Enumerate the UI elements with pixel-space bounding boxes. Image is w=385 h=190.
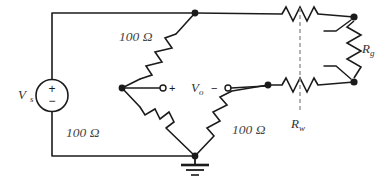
resistor-gauge-rg: R g (324, 13, 375, 85)
wire-topnode-to-r1 (176, 13, 195, 34)
source-label-subscript: s (30, 94, 34, 104)
circuit-diagram: + − V s 100 Ω 100 Ω (0, 0, 385, 190)
vo-minus-sign: − (211, 82, 217, 94)
r3-zigzag (207, 91, 232, 136)
resistor-top-left-value: 100 Ω (119, 29, 153, 44)
source-label: V (18, 87, 28, 102)
wire-topnode-to-rw-top (195, 13, 282, 14)
rg-top-pointer (324, 20, 351, 31)
resistor-bridge-bottom-right: 100 Ω (195, 85, 268, 156)
source-minus-sign: − (48, 94, 55, 108)
wire-vo-minus-to-rightnode (231, 86, 266, 88)
wire-groundnode-to-r3 (195, 136, 214, 156)
rg-label: R (361, 41, 370, 56)
resistor-bottom-left-value: 100 Ω (66, 125, 100, 140)
terminal-vo-plus (160, 85, 166, 91)
rw-label-subscript: w (299, 123, 305, 133)
circuit-canvas: + − V s 100 Ω 100 Ω (0, 0, 385, 190)
resistor-lead-wire-bottom (268, 78, 354, 92)
rg-bottom-pointer (324, 66, 351, 79)
wire-rw-top-to-rg-top (318, 14, 354, 17)
resistor-bottom-right-value: 100 Ω (232, 122, 266, 137)
wire-rw-bottom-to-rg-bottom (318, 82, 354, 85)
rg-label-subscript: g (370, 48, 375, 58)
wire-leftnode-to-r2 (122, 88, 140, 107)
resistor-bridge-bottom-left: 100 Ω (66, 88, 195, 156)
rw-callout: R w (290, 8, 305, 133)
resistor-lead-wire-top (195, 7, 354, 21)
voltage-source-vs: + − V s (18, 80, 68, 112)
wire-r2-to-groundnode (166, 128, 195, 156)
terminal-vo-minus (225, 85, 231, 91)
r2-zigzag (140, 107, 174, 128)
resistor-bridge-top-left: 100 Ω (119, 13, 195, 88)
vo-plus-sign: + (169, 82, 175, 94)
rg-zigzag (347, 21, 361, 78)
output-label-subscript: o (199, 87, 204, 97)
wire-source-to-top-node (52, 13, 195, 80)
rw-label: R (290, 116, 299, 131)
